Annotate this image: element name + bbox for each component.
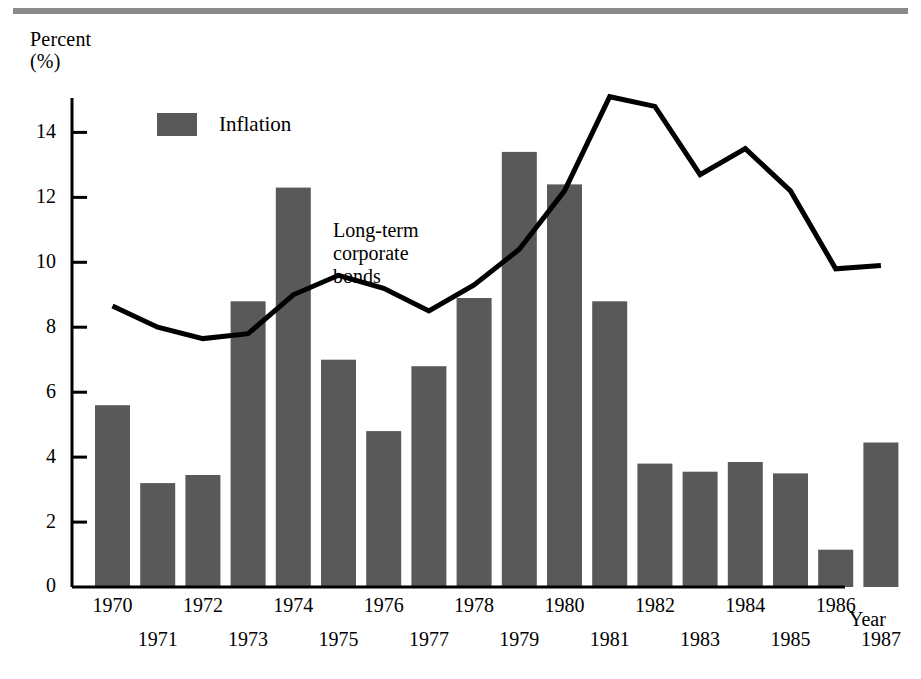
bar-1982	[637, 464, 672, 587]
x-tick-label-1983: 1983	[665, 628, 735, 651]
x-tick-label-1970: 1970	[78, 594, 148, 617]
x-tick-label-1979: 1979	[484, 628, 554, 651]
line-series-group	[113, 97, 881, 339]
x-tick-label-1975: 1975	[304, 628, 374, 651]
bar-1983	[683, 472, 718, 587]
bar-1976	[366, 431, 401, 587]
bar-1985	[773, 473, 808, 587]
x-tick-label-1972: 1972	[168, 594, 238, 617]
x-tick-label-1986: 1986	[801, 594, 871, 617]
x-tick-label-1971: 1971	[123, 628, 193, 651]
bar-1973	[231, 301, 266, 587]
bars-group	[95, 152, 898, 587]
bar-1981	[592, 301, 627, 587]
inflation-and-bond-yields-chart: Percent(%) Inflation Long-termcorporateb…	[0, 0, 921, 679]
x-tick-label-1987: 1987	[846, 628, 916, 651]
bar-1970	[95, 405, 130, 587]
x-tick-label-1978: 1978	[439, 594, 509, 617]
x-tick-label-1985: 1985	[756, 628, 826, 651]
bar-1974	[276, 188, 311, 587]
x-tick-label-1980: 1980	[530, 594, 600, 617]
plot-area	[0, 0, 921, 679]
x-tick-label-1977: 1977	[394, 628, 464, 651]
bar-1986	[818, 550, 853, 587]
x-tick-label-1982: 1982	[620, 594, 690, 617]
line-long-term-corporate-bonds	[113, 97, 881, 339]
x-tick-label-1973: 1973	[213, 628, 283, 651]
bar-1987	[863, 443, 898, 588]
bar-1984	[728, 462, 763, 587]
bar-1971	[140, 483, 175, 587]
bar-1977	[411, 366, 446, 587]
x-tick-label-1984: 1984	[710, 594, 780, 617]
bar-1979	[502, 152, 537, 587]
bar-1972	[185, 475, 220, 587]
bar-1978	[457, 298, 492, 587]
x-tick-label-1974: 1974	[258, 594, 328, 617]
bar-1975	[321, 360, 356, 587]
bar-1980	[547, 184, 582, 587]
x-tick-label-1981: 1981	[575, 628, 645, 651]
x-tick-label-1976: 1976	[349, 594, 419, 617]
